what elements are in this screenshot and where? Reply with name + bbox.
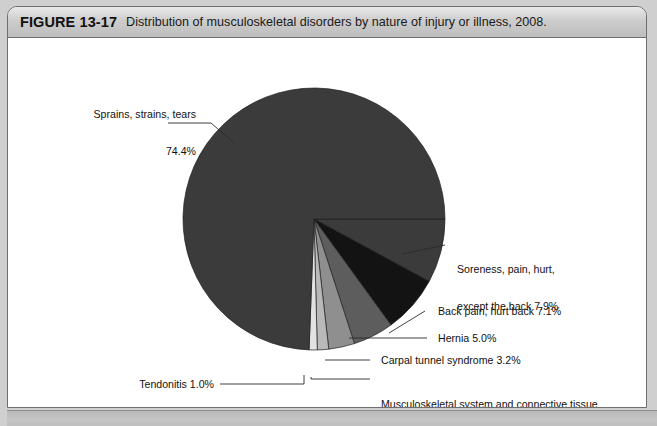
page-footer-band — [7, 410, 657, 426]
figure-title-bar: FIGURE 13-17 Distribution of musculoskel… — [8, 7, 646, 38]
figure-frame: FIGURE 13-17 Distribution of musculoskel… — [7, 6, 647, 408]
pie-chart-plot-area: Sprains, strains, tears 74.4% Soreness, … — [8, 39, 646, 408]
pie-label-soreness-line1: Soreness, pain, hurt, — [457, 263, 558, 275]
pie-label-backpain: Back pain, hurt back 7.1% — [438, 305, 561, 317]
pie-label-soreness: Soreness, pain, hurt, except the back 7.… — [457, 238, 558, 337]
pie-label-hernia: Hernia 5.0% — [438, 332, 496, 344]
pie-slice-group — [183, 88, 445, 350]
leader-line-tendonitis — [220, 375, 304, 384]
pie-label-sprains-line2: 74.4% — [44, 145, 196, 157]
pie-label-msd-line1: Musculoskeletal system and connective ti… — [381, 398, 602, 408]
pie-label-carpal: Carpal tunnel syndrome 3.2% — [381, 354, 521, 366]
pie-label-sprains-line1: Sprains, strains, tears — [44, 108, 196, 120]
pie-label-msd: Musculoskeletal system and connective ti… — [381, 373, 602, 408]
pie-label-sprains: Sprains, strains, tears 74.4% — [44, 83, 196, 182]
leader-line-msd — [311, 377, 370, 379]
figure-caption: Distribution of musculoskeletal disorder… — [126, 15, 547, 29]
figure-number: FIGURE 13-17 — [20, 14, 117, 30]
pie-label-tendonitis: Tendonitis 1.0% — [108, 378, 214, 390]
